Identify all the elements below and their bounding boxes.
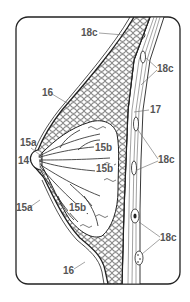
lymph-node-5 (135, 251, 143, 265)
label-15a-upper: 15a (20, 138, 37, 148)
label-18c-top: 18c (80, 28, 99, 38)
label-17: 17 (150, 105, 161, 115)
label-14: 14 (18, 156, 29, 166)
label-18c-mid-right: 18c (158, 155, 175, 165)
label-18c-lower-right: 18c (160, 233, 177, 243)
label-16-upper: 16 (42, 88, 53, 98)
label-15b-mid: 15b (95, 164, 114, 174)
label-15a-lower: 15a (16, 203, 33, 213)
label-15b-top: 15b (94, 143, 113, 153)
label-15b-lower: 15b (68, 203, 87, 213)
label-18c-upper-right: 18c (157, 64, 174, 74)
label-16-lower: 16 (63, 266, 74, 276)
lymph-node-3 (132, 161, 137, 175)
lymph-node-1 (141, 51, 146, 63)
lymph-node-2 (134, 117, 139, 131)
breast-anatomy-diagram: 18c 18c 16 17 15a 15b 18c 14 15b 15a 15b… (0, 0, 190, 302)
